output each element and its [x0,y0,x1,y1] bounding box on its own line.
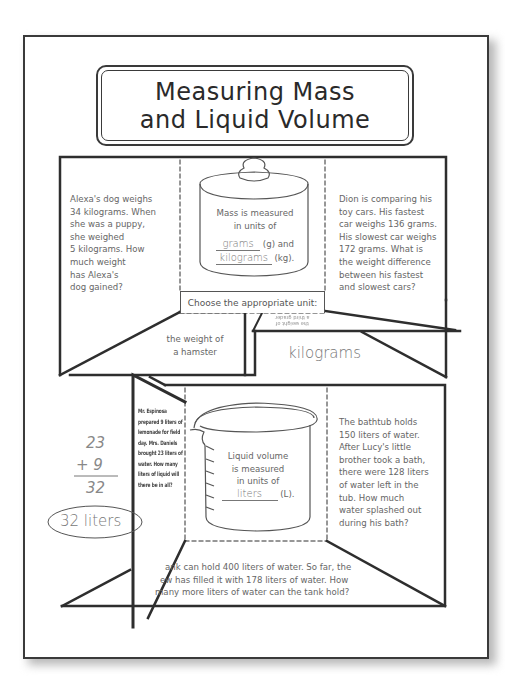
problem-line: ew has filled it with 178 liters of wate… [155,574,375,587]
problem-line: 5 kilograms. How [70,243,175,256]
problem-line: ank can hold 400 liters of water. So far… [155,561,375,574]
flap-line: a hamster [150,346,240,359]
problem-line: lemonade for field [138,427,188,438]
problem-line: Dion is comparing his [339,193,444,206]
unit-label-g: (g) and [263,239,294,249]
problem-line: Alexa's dog weighs [70,193,175,206]
problem-line: she weighed [70,231,175,244]
volume-bottom-problem: ank can hold 400 liters of water. So far… [155,561,375,599]
problem-line: the weight difference [339,256,444,269]
problem-line: many more liters of water can the tank h… [155,586,375,599]
problem-line: and slowest cars? [339,281,444,294]
problem-line: there were 128 liters [339,466,444,479]
answer-grams: grams [216,237,260,251]
mass-right-problem: Dion is comparing his toy cars. His fast… [339,193,444,294]
problem-line: she was a puppy, [70,218,175,231]
problem-line: day. Mrs. Daniels [138,438,188,449]
volume-flap-problem: Mr. Espinosa prepared 9 liters of lemona… [138,406,208,490]
answer-kilograms: kilograms [216,251,272,265]
problem-line: during his bath? [339,517,444,530]
problem-line: tub. How much [339,492,444,505]
problem-line: His slowest car weighs [339,231,444,244]
problem-line: Mr. Espinosa [138,406,188,417]
volume-right-problem: The bathtub holds 150 liters of water. A… [339,416,444,529]
unit-label-kg: (kg). [274,253,294,263]
problem-line: liters of liquid will [138,469,188,480]
flap-line: the weight of [275,321,310,327]
problem-line: 34 kilograms. When [70,206,175,219]
work-sum: 32 [86,479,105,497]
problem-line: prepared 9 liters of [138,417,188,428]
problem-line: water. How many [138,459,188,470]
definition-line: in units of [205,220,305,233]
problem-line: toy cars. His fastest [339,206,444,219]
problem-line: 150 liters of water. [339,429,444,442]
problem-line: water splashed out [339,504,444,517]
flap-line: a third grader [275,315,310,321]
work-addend-1: 23 [86,434,105,452]
mass-definition: Mass is measured in units of grams (g) a… [205,207,305,265]
problem-line: between his fastest [339,269,444,282]
definition-line: Liquid volume [208,450,308,463]
answer-flap-kilograms: kilograms [288,344,361,362]
problem-line: The bathtub holds [339,416,444,429]
flap-hamster: the weight of a hamster [150,333,240,358]
problem-line: brother took a bath, [339,454,444,467]
unit-label-l: (L). [280,489,294,499]
problem-line: there be in all? [138,480,188,491]
definition-line: in units of [208,475,308,488]
problem-line: 172 grams. What is [339,243,444,256]
choose-unit-label: Choose the appropriate unit: [180,291,325,313]
work-addend-2: + 9 [76,456,103,474]
problem-line: much weight [70,256,175,269]
problem-line: car weighs 136 grams. [339,218,444,231]
problem-line: has Alexa's [70,269,175,282]
definition-line: is measured [208,463,308,476]
choose-unit-text: Choose the appropriate unit: [188,298,318,308]
answer-liters: liters [222,488,278,502]
problem-line: dog gained? [70,281,175,294]
problem-line: brought 23 liters of [138,448,188,459]
mass-left-problem: Alexa's dog weighs 34 kilograms. When sh… [70,193,175,294]
volume-definition: Liquid volume is measured in units of li… [208,450,308,501]
problem-line: After Lucy's little [339,441,444,454]
flap-third-grader: the weight of a third grader [275,315,310,326]
flap-line: the weight of [150,333,240,346]
definition-line: Mass is measured [205,207,305,220]
work-answer: 32 liters [60,512,121,530]
problem-line: of water left in the [339,479,444,492]
